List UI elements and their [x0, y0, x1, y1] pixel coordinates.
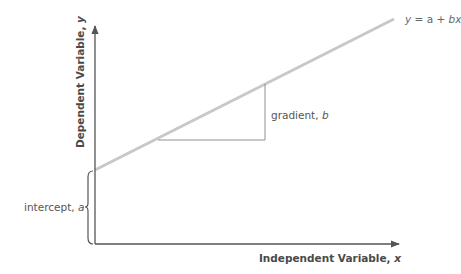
equation-rest: = a + — [411, 13, 448, 25]
intercept-brace — [85, 171, 93, 244]
x-axis-label-text: Independent Variable, — [259, 252, 394, 264]
regression-line — [95, 19, 394, 170]
gradient-label: gradient, b — [271, 109, 329, 121]
x-axis-label: Independent Variable, x — [259, 252, 402, 264]
regression-diagram: y = a + bx gradient, b intercept, a Inde… — [0, 0, 461, 274]
intercept-label: intercept, a — [24, 201, 84, 213]
equation-label: y = a + bx — [404, 13, 461, 25]
x-axis-label-var: x — [393, 252, 402, 264]
y-axis-label-text: Dependent Variable, — [74, 23, 86, 148]
equation-bx: bx — [449, 13, 461, 25]
y-axis-label-var: y — [74, 15, 86, 23]
intercept-var: a — [78, 201, 84, 213]
intercept-text: intercept, — [24, 201, 78, 213]
gradient-var: b — [322, 109, 329, 121]
y-axis-label: Dependent Variable, y — [74, 15, 86, 148]
gradient-text: gradient, — [271, 109, 322, 121]
